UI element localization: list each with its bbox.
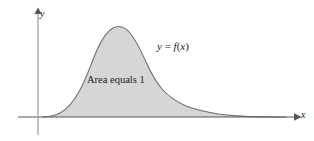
curve-equation-label: y = f(x) [157, 41, 189, 52]
y-axis-label: y [40, 9, 44, 19]
curve-equation-equals: = [162, 40, 174, 52]
curve-equation-paren-close: ) [185, 40, 189, 52]
plot-area [0, 0, 314, 141]
density-curve-figure: y x y = f(x) Area equals 1 [0, 0, 314, 141]
x-axis-label: x [301, 110, 305, 120]
area-annotation-label: Area equals 1 [87, 75, 145, 86]
